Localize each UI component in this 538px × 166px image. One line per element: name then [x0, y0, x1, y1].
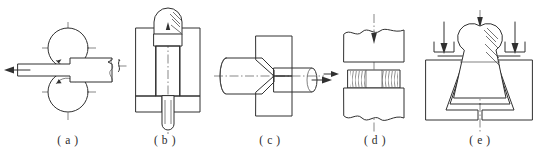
- panel-d-drawing: [322, 0, 422, 140]
- panel-b-drawing: [118, 0, 218, 140]
- forming-process-figure: ( a ) ( b ) ( c ) ( d ) ( e ): [0, 0, 538, 166]
- feed-arrow-d: [324, 71, 339, 77]
- caption-d: ( d ): [335, 134, 415, 146]
- upset-workpiece: [348, 70, 400, 88]
- caption-a: ( a ): [28, 134, 108, 146]
- die-shoulder-right: [174, 96, 200, 112]
- drawn-bar: [274, 68, 317, 92]
- caption-c: ( c ): [230, 134, 310, 146]
- panel-c-drawing-process: [212, 0, 332, 140]
- panel-b-extrusion: [118, 0, 218, 140]
- panel-c-drawing: [212, 0, 332, 140]
- panel-d-upsetting: [322, 0, 422, 140]
- caption-b: ( b ): [125, 134, 205, 146]
- container-left-wall: [136, 28, 156, 96]
- punch: [154, 8, 182, 34]
- panel-e-die-forging: [420, 0, 538, 140]
- extruded-rod: [162, 96, 174, 130]
- adjacent-stock-fragment: [118, 60, 128, 72]
- panel-a-drawing: [0, 0, 120, 140]
- caption-row: ( a ) ( b ) ( c ) ( d ) ( e ): [0, 134, 538, 166]
- panel-e-drawing: [420, 0, 538, 140]
- forged-workpiece: [454, 24, 506, 98]
- lower-die: [344, 88, 404, 120]
- die-shoulder-left: [136, 96, 162, 112]
- punch-follower: [154, 34, 182, 46]
- caption-e: ( e ): [440, 134, 520, 146]
- panel-a-rolling: [0, 0, 120, 140]
- forging-side-arrow-right: [505, 22, 525, 54]
- container-right-wall: [180, 28, 200, 96]
- forging-side-arrow-left: [434, 22, 454, 54]
